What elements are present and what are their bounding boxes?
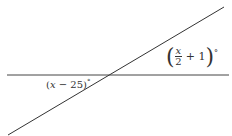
angle-label-left: (x − 25)° bbox=[46, 78, 90, 90]
fraction-denominator: 2 bbox=[175, 57, 183, 67]
angle-rest: − 25) bbox=[56, 79, 87, 90]
angle-plus-term: + 1 bbox=[186, 50, 206, 63]
degree-symbol: ° bbox=[87, 78, 91, 86]
degree-symbol: ° bbox=[214, 48, 218, 57]
transversal-line bbox=[8, 7, 224, 135]
diagram: (x2 + 1)° (x − 25)° bbox=[0, 0, 232, 136]
angle-label-right: (x2 + 1)° bbox=[166, 44, 218, 69]
